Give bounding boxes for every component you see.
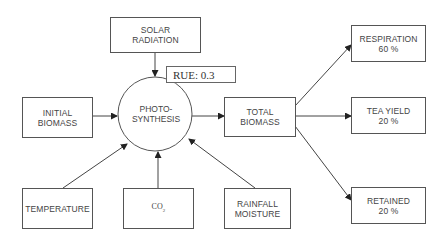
photosynthesis-node: PHOTO- SYNTHESIS — [122, 104, 190, 124]
rainfall-line1: RAINFALL — [237, 199, 278, 209]
tea-yield-line1: TEA YIELD — [367, 106, 411, 116]
photosynthesis-line2: SYNTHESIS — [122, 114, 190, 124]
diagram-canvas: SOLAR RADIATION RUE: 0.3 INITIAL BIOMASS… — [0, 0, 448, 242]
retained-line1: RETAINED — [367, 196, 410, 206]
rue-label-box: RUE: 0.3 — [166, 66, 236, 83]
co2-node: CO2 — [123, 188, 194, 229]
arrow-total-to-respiration — [295, 45, 351, 106]
temperature-label: TEMPERATURE — [25, 204, 90, 214]
retained-node: RETAINED 20 % — [351, 187, 426, 224]
retained-percent: 20 % — [379, 206, 399, 216]
rue-value: RUE: 0.3 — [173, 69, 215, 81]
respiration-node: RESPIRATION 60 % — [351, 25, 426, 62]
tea-yield-percent: 20 % — [379, 116, 399, 126]
arrow-rainfall-to-photosynthesis — [189, 139, 255, 188]
arrow-temperature-to-photosynthesis — [63, 144, 127, 188]
initial-biomass-line1: INITIAL — [43, 108, 73, 118]
co2-subscript: 2 — [163, 207, 166, 212]
solar-radiation-node: SOLAR RADIATION — [110, 17, 201, 53]
rainfall-moisture-node: RAINFALL MOISTURE — [224, 188, 291, 229]
initial-biomass-node: INITIAL BIOMASS — [22, 97, 93, 138]
solar-radiation-line1: SOLAR — [141, 25, 170, 35]
solar-radiation-line2: RADIATION — [132, 35, 179, 45]
arrow-total-to-retained — [295, 126, 351, 200]
co2-label: CO2 — [152, 202, 166, 216]
co2-main: CO — [152, 202, 163, 211]
total-biomass-node: TOTAL BIOMASS — [224, 97, 296, 137]
total-biomass-line2: BIOMASS — [240, 117, 279, 127]
rainfall-line2: MOISTURE — [235, 209, 281, 219]
total-biomass-line1: TOTAL — [246, 107, 273, 117]
respiration-line1: RESPIRATION — [359, 34, 417, 44]
photosynthesis-line1: PHOTO- — [122, 104, 190, 114]
initial-biomass-line2: BIOMASS — [38, 118, 77, 128]
temperature-node: TEMPERATURE — [22, 188, 93, 229]
tea-yield-node: TEA YIELD 20 % — [351, 97, 426, 134]
respiration-percent: 60 % — [379, 44, 399, 54]
